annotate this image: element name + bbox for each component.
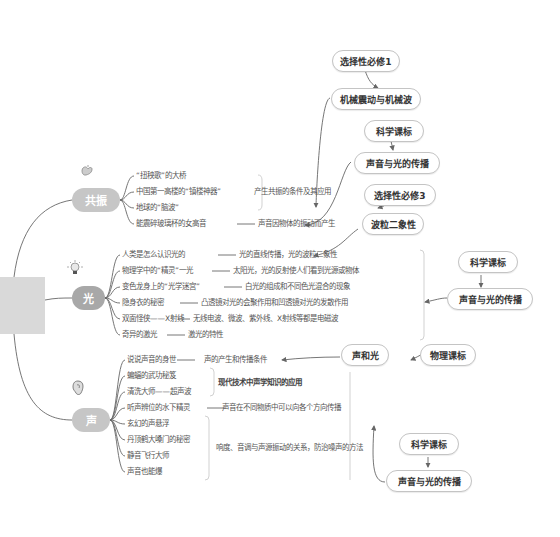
leaf-gongzhen-2[interactable]: 中国第一高楼的“镇楼神器” — [136, 187, 221, 197]
leaf-sheng-2[interactable]: 蝙蝠的武功秘笈 — [127, 371, 176, 381]
callout-xuanze1[interactable]: 选择性必修1 — [332, 50, 400, 72]
callout-shengyin3[interactable]: 声音与光的传播 — [386, 470, 472, 492]
callout-shengheguang[interactable]: 声和光 — [341, 344, 389, 366]
summary-guang-3: 白光的组成和不同色光混合的现象 — [245, 282, 350, 292]
leaf-sheng-7[interactable]: 静音飞行大师 — [127, 451, 169, 461]
callout-shengyin2[interactable]: 声音与光的传播 — [447, 288, 533, 310]
leaf-sheng-1[interactable]: 说说声音的身世 — [127, 355, 176, 365]
ear-icon — [72, 380, 84, 400]
lightbulb-icon — [67, 260, 83, 280]
summary-sheng-2: 现代技术中声学知识的应用 — [218, 378, 302, 388]
summary-sheng-3: 声音在不同物质中可以向各个方向传播 — [222, 403, 341, 413]
topic-gongzhen[interactable]: 共振 — [72, 188, 120, 212]
leaf-sheng-8[interactable]: 声音也能爆 — [127, 467, 162, 477]
leaf-gongzhen-3[interactable]: 地球的“脑波” — [136, 203, 179, 213]
topic-guang[interactable]: 光 — [72, 286, 105, 310]
leaf-guang-6[interactable]: 奇异的激光 — [122, 330, 157, 340]
summary-sheng-4: 响度、音调与声源振动的关系，防治噪声的方法 — [216, 443, 363, 453]
summary-guang-2: 太阳光，光的反射使人们看到光源或物体 — [233, 266, 359, 276]
summary-guang-6: 激光的特性 — [188, 330, 223, 340]
leaf-sheng-5[interactable]: 玄幻的声悬浮 — [127, 419, 169, 429]
leaf-guang-4[interactable]: 隐身衣的秘密 — [122, 298, 164, 308]
callout-wuli[interactable]: 物理课标 — [420, 344, 476, 366]
central-node[interactable] — [0, 277, 45, 334]
leaf-guang-3[interactable]: 变色龙身上的“光学迷宫” — [122, 282, 200, 292]
leaf-gongzhen-1[interactable]: “扭秧歌”的大桥 — [136, 171, 186, 181]
leaf-guang-1[interactable]: 人类是怎么认识光的 — [122, 250, 185, 260]
callout-kexue2[interactable]: 科学课标 — [458, 251, 518, 273]
summary-guang-1: 光的直线传播，光的波粒二象性 — [239, 250, 337, 260]
summary-guang-4: 凸透镜对光的会聚作用和凹透镜对光的发散作用 — [201, 298, 348, 308]
leaf-sheng-3[interactable]: 清洗大师——超声波 — [127, 387, 191, 397]
summary-gongzhen-1: 产生共振的条件及其应用 — [254, 187, 331, 197]
summary-gongzhen-2: 声音因物体的振动而产生 — [258, 219, 335, 229]
summary-guang-5: 无线电波、微波、紫外线、X射线等都是电磁波 — [193, 314, 338, 324]
leaf-sheng-4[interactable]: 听声辨位的水下精灵 — [127, 403, 190, 413]
leaf-guang-5[interactable]: 双面怪侠——X射线 — [122, 314, 184, 324]
leaf-gongzhen-4[interactable]: 能震碎玻璃杯的女高音 — [136, 219, 206, 229]
topic-sheng[interactable]: 声 — [72, 408, 110, 432]
callout-jixie[interactable]: 机械震动与机械波 — [331, 88, 421, 110]
callout-boli[interactable]: 波粒二象性 — [362, 213, 424, 235]
leaf-guang-2[interactable]: 物理学中的“精灵”一光 — [122, 266, 193, 276]
callout-kexue3[interactable]: 科学课标 — [399, 433, 459, 455]
callout-xuanze3[interactable]: 选择性必修3 — [364, 184, 436, 206]
callout-shengyin1[interactable]: 声音与光的传播 — [354, 152, 440, 174]
callout-kexue1[interactable]: 科学课标 — [364, 120, 424, 142]
leaf-sheng-6[interactable]: 丹顶鹤大嗓门的秘密 — [127, 435, 190, 445]
summary-sheng-1: 声的产生和传播条件 — [204, 355, 267, 365]
stomach-icon — [80, 163, 94, 182]
